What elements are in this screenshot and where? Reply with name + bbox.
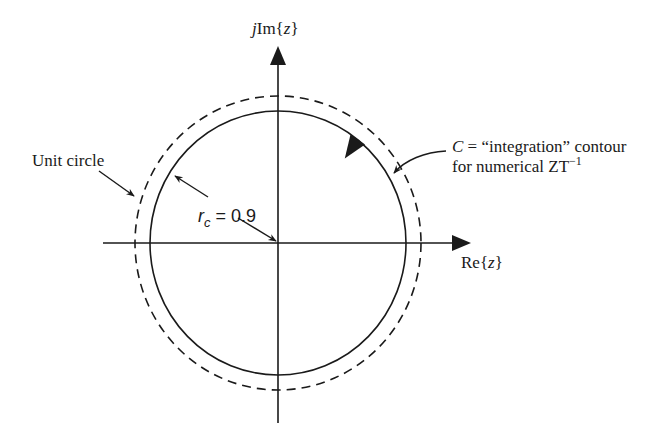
z-plane-diagram: jIm{z} Re{z} Unit circle rc = 0.9 C = “i…: [0, 0, 671, 438]
imag-axis-arrow-icon: [270, 46, 286, 65]
radius-label: rc = 0.9: [198, 206, 256, 230]
contour-pointer-arrow: [394, 151, 446, 173]
radius-pointer-to-origin: [238, 218, 276, 241]
real-axis-arrow-icon: [452, 235, 471, 251]
radius-pointer-to-contour: [175, 176, 208, 197]
unit-circle-pointer-arrow: [99, 171, 134, 196]
real-axis-label: Re{z}: [461, 253, 503, 272]
unit-circle-label: Unit circle: [32, 151, 104, 170]
imag-axis-label: jIm{z}: [250, 19, 299, 38]
contour-label-line2: for numerical ZT−1: [452, 154, 582, 176]
contour-label-line1: C = “integration” contour: [452, 137, 627, 156]
